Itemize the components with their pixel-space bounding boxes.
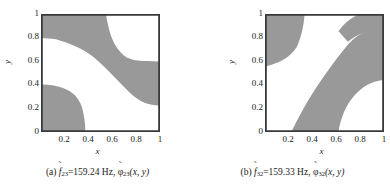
x-tick-a-4: 1 (158, 135, 163, 144)
x-tick-b-1: 0.4 (306, 135, 317, 144)
y-tick-b-0: 1 (259, 9, 264, 18)
mode-shape-contour-b (266, 15, 383, 131)
y-tick-b-3: 0.4 (252, 79, 263, 88)
y-tick-a-1: 0.8 (28, 32, 39, 41)
x-tick-a-1: 0.4 (82, 135, 93, 144)
y-tick-a-3: 0.4 (28, 79, 39, 88)
caption-a-mode-symbol-wrap: φ˜ (118, 166, 123, 178)
caption-a-label: (a) (46, 167, 57, 177)
caption-a-comma: , (113, 167, 115, 177)
caption-b: (b) f˜32=159.33 Hz, φ˜32(x, y) (195, 166, 390, 180)
caption-b-freq-value: 159.33 (269, 167, 295, 177)
y-axis-title-a: y (2, 60, 12, 64)
caption-a-freq-unit: Hz (102, 167, 113, 177)
caption-b-mode-args: (x, y) (325, 167, 345, 177)
y-axis-title-b: y (226, 60, 236, 64)
caption-a-freq-symbol-wrap: f˜ (59, 166, 62, 178)
caption-a-freq-value: 159.24 (73, 167, 99, 177)
caption-b-comma: , (308, 167, 310, 177)
panel-a: 1 0.8 0.6 0.4 0.2 0 0.2 0.4 0.6 0.8 1 x … (0, 0, 195, 188)
y-tick-a-2: 0.6 (28, 56, 39, 65)
x-tick-b-3: 0.8 (354, 135, 365, 144)
x-tick-b-4: 1 (382, 135, 387, 144)
tilde-accent-icon: ˜ (314, 160, 317, 169)
x-tick-a-0: 0.2 (58, 135, 69, 144)
caption-b-label: (b) (241, 167, 252, 177)
y-tick-a-0: 1 (35, 9, 40, 18)
y-tick-b-1: 0.8 (252, 32, 263, 41)
x-axis-title-b: x (224, 146, 390, 156)
caption-a: (a) f˜23=159.24 Hz, φ˜23(x, y) (0, 166, 195, 180)
figure-two-mode-shapes: 1 0.8 0.6 0.4 0.2 0 0.2 0.4 0.6 0.8 1 x … (0, 0, 390, 188)
caption-b-mode-symbol-wrap: φ˜ (313, 166, 318, 178)
y-tick-labels-a: 1 0.8 0.6 0.4 0.2 0 (14, 9, 39, 137)
caption-b-freq-unit: Hz (297, 167, 308, 177)
tilde-accent-icon: ˜ (119, 160, 122, 169)
y-tick-a-4: 0.2 (28, 103, 39, 112)
x-axis-title-a: x (0, 146, 195, 156)
caption-b-freq-symbol-wrap: f˜ (254, 166, 257, 178)
x-tick-a-3: 0.8 (130, 135, 141, 144)
x-tick-b-2: 0.6 (330, 135, 341, 144)
tilde-accent-icon: ˜ (58, 160, 61, 169)
caption-a-mode-args: (x, y) (130, 167, 150, 177)
x-tick-b-0: 0.2 (282, 135, 293, 144)
x-tick-a-2: 0.6 (106, 135, 117, 144)
tilde-accent-icon: ˜ (254, 160, 257, 169)
y-tick-b-2: 0.6 (252, 56, 263, 65)
panel-b: 1 0.8 0.6 0.4 0.2 0 0.2 0.4 0.6 0.8 1 x … (195, 0, 390, 188)
y-tick-b-4: 0.2 (252, 103, 263, 112)
plot-area-b (265, 14, 384, 132)
mode-shape-contour-a (42, 15, 159, 131)
y-tick-labels-b: 1 0.8 0.6 0.4 0.2 0 (238, 9, 263, 137)
plot-area-a (41, 14, 160, 132)
